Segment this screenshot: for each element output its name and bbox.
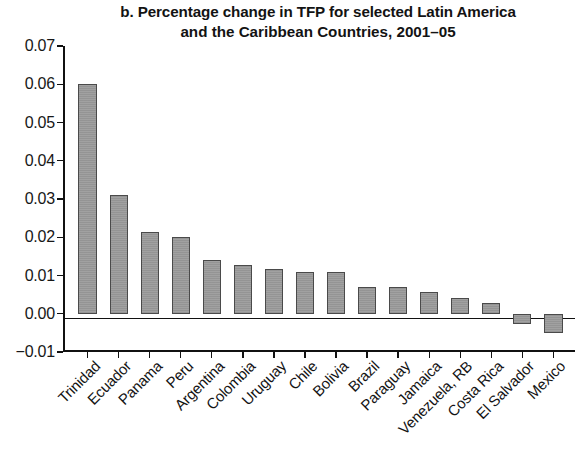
chart-title-line-1: b. Percentage change in TFP for selected…: [62, 2, 574, 22]
y-axis-tick: [57, 84, 63, 85]
y-axis-line: [63, 46, 65, 352]
figure-container: b. Percentage change in TFP for selected…: [0, 0, 579, 459]
bar-peru[interactable]: [172, 237, 190, 314]
bar-trinidad[interactable]: [78, 84, 96, 314]
bar-uruguay[interactable]: [265, 269, 283, 314]
bar-costa-rica[interactable]: [482, 303, 500, 314]
y-axis-tick: [57, 45, 63, 46]
chart-title: b. Percentage change in TFP for selected…: [62, 2, 574, 42]
y-axis-tick-label: 0.05: [25, 115, 55, 131]
y-axis-tick: [57, 122, 63, 123]
y-axis-tick-label: 0.04: [25, 153, 55, 169]
y-axis-tick-label: 0.02: [25, 229, 55, 245]
bar-paraguay[interactable]: [389, 287, 407, 313]
y-axis-tick-label: 0.01: [25, 268, 55, 284]
bar-brazil[interactable]: [358, 287, 376, 314]
bar-chile[interactable]: [296, 272, 314, 314]
bar-argentina[interactable]: [203, 260, 221, 314]
y-axis-tick: [57, 313, 63, 314]
bar-colombia[interactable]: [234, 265, 252, 314]
y-axis-tick-label: 0.00: [25, 306, 55, 322]
bar-ecuador[interactable]: [110, 195, 128, 314]
zero-baseline: [63, 318, 575, 319]
bar-panama[interactable]: [141, 232, 159, 314]
y-axis-tick: [57, 237, 63, 238]
y-axis-tick: [57, 275, 63, 276]
y-axis-tick-label: 0.06: [25, 76, 55, 92]
bar-venezuela-rb[interactable]: [451, 298, 469, 313]
y-axis-tick: [57, 351, 63, 352]
y-axis-tick: [57, 198, 63, 199]
chart-title-line-2: and the Caribbean Countries, 2001–05: [62, 22, 574, 42]
y-axis-tick: [57, 160, 63, 161]
bar-bolivia[interactable]: [327, 272, 345, 313]
y-axis-tick-label: 0.07: [25, 38, 55, 54]
plot-area: 0.070.060.050.040.030.020.010.00−0.01 Tr…: [63, 46, 575, 352]
bar-jamaica[interactable]: [420, 292, 438, 314]
y-axis-tick-label: −0.01: [16, 344, 56, 360]
y-axis-tick-label: 0.03: [25, 191, 55, 207]
x-axis-tick: [87, 351, 88, 358]
